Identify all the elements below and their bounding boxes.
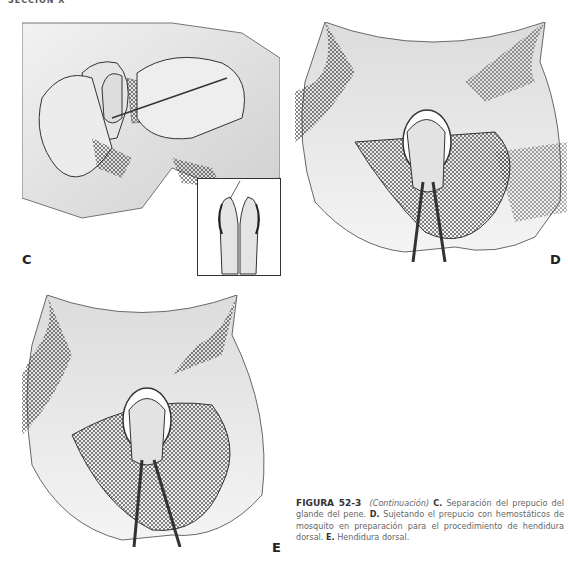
figure-caption: FIGURA 52-3 (Continuación) C. Separación… xyxy=(296,498,564,544)
inset-detail-box xyxy=(197,178,281,276)
panel-label-e: E xyxy=(272,540,281,555)
running-head: SECCIÓN X xyxy=(8,0,65,5)
caption-letter-d: D. xyxy=(370,509,380,519)
caption-letter-e: E. xyxy=(326,532,335,542)
figure-number: FIGURA 52-3 xyxy=(296,498,361,508)
illustration-panel-e xyxy=(22,295,280,547)
panel-label-d: D xyxy=(550,252,561,267)
glans-separation-inset-illustration xyxy=(198,179,280,275)
illustration-panel-d xyxy=(295,22,567,262)
caption-text-e: Hendidura dorsal. xyxy=(337,532,409,542)
panel-label-c: C xyxy=(22,252,32,267)
caption-continuation: (Continuación) xyxy=(370,498,429,508)
dorsal-slit-illustration xyxy=(22,295,280,547)
caption-letter-c: C. xyxy=(433,498,442,508)
hemostats-holding-foreskin-illustration xyxy=(295,22,567,262)
